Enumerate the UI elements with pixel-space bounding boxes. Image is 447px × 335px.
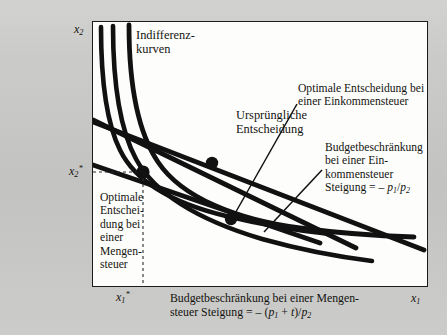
label-budget-quantity-tax-line1: Budgetbeschränkung bei einer Mengen- bbox=[170, 291, 359, 305]
label-budget-income-tax-line2: bei einer Ein- bbox=[325, 154, 388, 167]
label-budget-quantity-tax: Budgetbeschränkung bei einer Mengen-steu… bbox=[170, 292, 359, 320]
axis-label-x2: x2 bbox=[74, 22, 83, 37]
axis-label-x1: x1 bbox=[411, 291, 420, 306]
label-indifference-curves: Indifferenz- kurven bbox=[136, 28, 195, 57]
label-budget-income-tax-line3: kommensteuer bbox=[325, 168, 393, 181]
point-original-decision bbox=[206, 157, 218, 169]
tick-label-x1-star: x1* bbox=[116, 290, 130, 305]
label-original-decision: Ursprüngliche Entscheidung bbox=[236, 108, 307, 137]
tick-label-x2-star: x2* bbox=[69, 164, 83, 179]
figure-page: x2 x1 x2* x1* Indifferenz- kurven Ursprü… bbox=[0, 0, 447, 335]
label-budget-quantity-tax-line2: steuer Steigung = – (p1 + t)/p2 bbox=[170, 305, 311, 319]
label-budget-income-tax: Budgetbeschränkungbei einer Ein-kommenst… bbox=[325, 141, 423, 196]
point-optimum-quantity-tax bbox=[136, 165, 149, 178]
label-optimum-income-tax: Optimale Entscheidung bei einer Einkomme… bbox=[298, 82, 424, 109]
label-budget-income-tax-slope: Steigung = – p1/p2 bbox=[325, 181, 410, 194]
label-budget-income-tax-line1: Budgetbeschränkung bbox=[325, 141, 423, 154]
label-optimum-quantity-tax: Optimale Entschei- dung bei einer Mengen… bbox=[100, 191, 144, 272]
leader-line-budget-income-tax bbox=[264, 170, 322, 232]
point-optimum-income-tax bbox=[225, 213, 237, 225]
